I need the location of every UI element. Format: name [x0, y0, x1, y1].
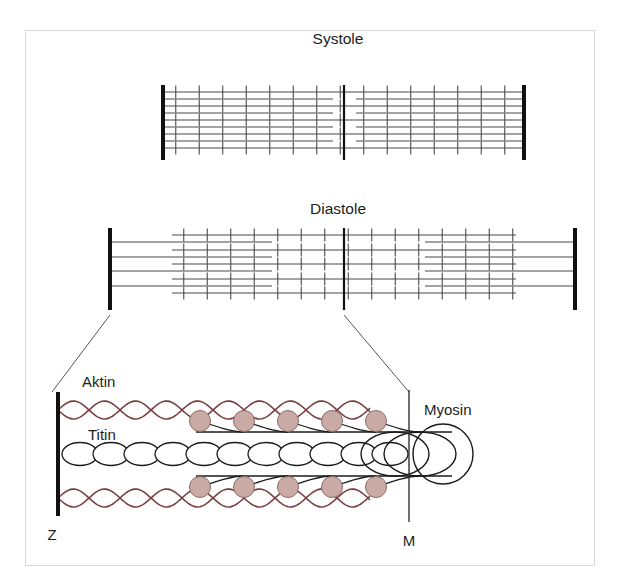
label-z-line: Z [47, 526, 56, 543]
panel-title-systole: Systole [313, 30, 364, 47]
label-m-line: M [403, 532, 416, 549]
titin-chain [62, 443, 408, 466]
myosin-head-upper [278, 411, 299, 432]
panel-title-diastole: Diastole [310, 200, 366, 217]
myosin-head-upper [322, 411, 343, 432]
sarcomere-diagram-svg: Systole Diastole Aktin Titin Myosin Z M [0, 0, 618, 581]
myosin-head-upper [234, 411, 255, 432]
label-titin: Titin [88, 426, 116, 443]
myosin-head-upper [366, 411, 387, 432]
label-aktin: Aktin [82, 373, 115, 390]
myosin-head-upper [190, 411, 211, 432]
myosin-head-lower [278, 477, 299, 498]
myosin-head-lower [234, 477, 255, 498]
figure-container: Systole Diastole Aktin Titin Myosin Z M [0, 0, 618, 581]
myosin-head-lower [322, 477, 343, 498]
myosin-head-lower [190, 477, 211, 498]
myosin-head-lower [366, 477, 387, 498]
titin-domain [372, 443, 408, 466]
label-myosin: Myosin [424, 401, 472, 418]
